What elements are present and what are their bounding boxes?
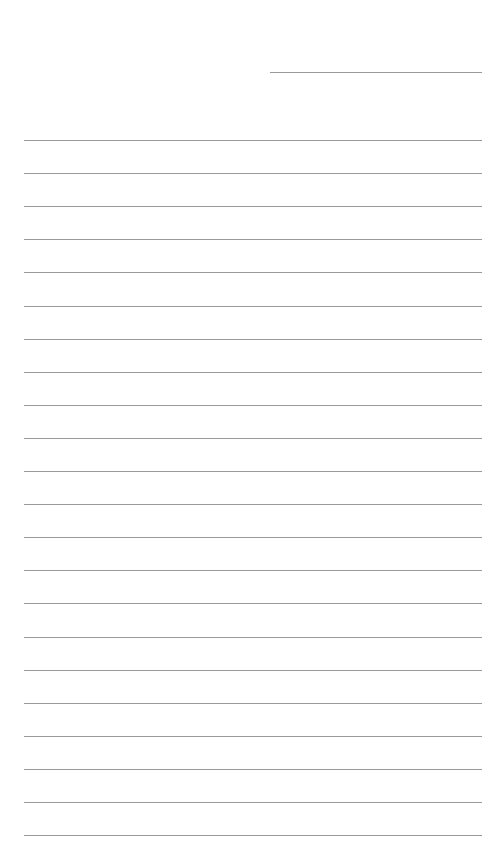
ruled-line [24, 504, 482, 505]
ruled-line [24, 835, 482, 836]
ruled-line [24, 339, 482, 340]
ruled-line [24, 802, 482, 803]
ruled-line [24, 670, 482, 671]
ruled-line [24, 603, 482, 604]
ruled-line [24, 438, 482, 439]
ruled-line [24, 306, 482, 307]
ruled-line [24, 769, 482, 770]
ruled-line [24, 140, 482, 141]
ruled-line [24, 736, 482, 737]
ruled-line [24, 206, 482, 207]
date-line [270, 72, 482, 73]
ruled-line [24, 405, 482, 406]
ruled-line [24, 173, 482, 174]
ruled-line [24, 372, 482, 373]
ruled-line [24, 537, 482, 538]
ruled-line [24, 471, 482, 472]
ruled-line [24, 570, 482, 571]
ruled-line [24, 637, 482, 638]
ruled-line [24, 272, 482, 273]
ruled-line [24, 239, 482, 240]
ruled-line [24, 703, 482, 704]
